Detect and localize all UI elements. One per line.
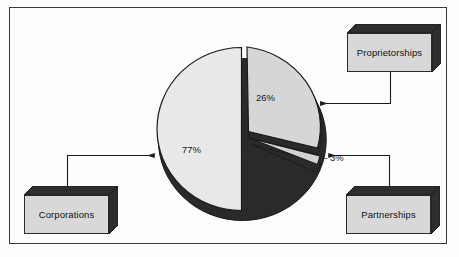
callout-box-corporations[interactable]: Corporations <box>24 186 118 234</box>
corporations-box-face: Corporations <box>24 195 109 234</box>
callout-box-partnerships[interactable]: Partnerships <box>346 186 440 234</box>
partnerships-box-face: Partnerships <box>346 195 431 234</box>
slice-label-corporations: 77% <box>182 144 201 155</box>
callout-box-proprietorships[interactable]: Proprietorships <box>347 24 441 72</box>
slice-label-proprietorships: 26% <box>256 92 275 103</box>
pie-slice-corporations[interactable] <box>157 48 242 211</box>
callout-label-proprietorships: Proprietorships <box>357 47 422 58</box>
pie-chart-figure: 77% 26% – 3% Proprietorships Corporation… <box>0 0 459 257</box>
slice-label-partnerships: – 3% <box>322 152 344 163</box>
leader-corporations <box>68 156 155 187</box>
leader-proprietorships <box>321 72 391 104</box>
callout-label-partnerships: Partnerships <box>361 209 416 220</box>
proprietorships-box-face: Proprietorships <box>347 33 432 72</box>
callout-label-corporations: Corporations <box>39 209 95 220</box>
